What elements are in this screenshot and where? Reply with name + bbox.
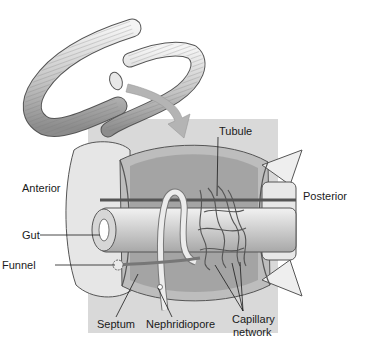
body-segment [66, 142, 302, 310]
label-anterior: Anterior [22, 182, 61, 194]
label-posterior: Posterior [303, 190, 347, 202]
worm-cut-end [107, 70, 124, 91]
label-tubule: Tubule [219, 125, 252, 137]
label-capillary-line1: Capillary [232, 313, 275, 325]
label-capillary-line2: network [233, 326, 272, 338]
label-septum: Septum [97, 318, 135, 330]
label-gut: Gut [22, 229, 40, 241]
diagram: Anterior Posterior Gut Funnel Septum Nep… [0, 0, 365, 348]
label-nephridiopore: Nephridiopore [146, 318, 215, 330]
label-funnel: Funnel [2, 259, 36, 271]
